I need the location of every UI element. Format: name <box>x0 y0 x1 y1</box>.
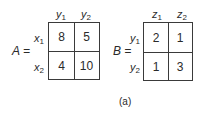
matrix-a-row-header-1: x1 <box>34 32 44 48</box>
matrix-b-cell-2-2: 3 <box>168 60 192 74</box>
matrix-a-row-header-2: x2 <box>34 61 44 77</box>
matrix-a-cell-2-2: 10 <box>74 59 99 73</box>
matrix-a-divider-h <box>49 51 99 52</box>
matrix-a-cell-2-1: 4 <box>49 59 74 73</box>
matrix-b-row-header-1: y1 <box>130 32 140 48</box>
figure-caption: (a) <box>119 96 131 107</box>
matrix-b-row-header-2: y2 <box>130 61 140 77</box>
matrix-a-cell-1-1: 8 <box>49 30 74 44</box>
matrix-a-label: A = <box>12 44 30 58</box>
matrix-b-cell-1-2: 1 <box>168 31 192 45</box>
matrix-b-divider-h <box>144 52 192 53</box>
matrix-b-label: B = <box>113 44 131 58</box>
matrix-b-cell-1-1: 2 <box>144 31 168 45</box>
matrix-a-grid: 8 5 4 10 <box>48 22 100 80</box>
matrix-b-cell-2-1: 1 <box>144 60 168 74</box>
matrix-a-cell-1-2: 5 <box>74 30 99 44</box>
matrix-b-grid: 2 1 1 3 <box>143 22 193 81</box>
